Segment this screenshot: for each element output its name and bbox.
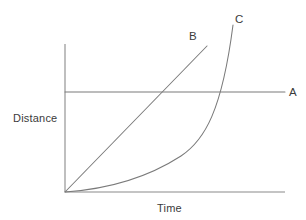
plot-area	[0, 0, 306, 220]
distance-time-graph: Distance Time A B C	[0, 0, 306, 220]
x-axis-label: Time	[157, 202, 182, 215]
series-b-label: B	[189, 30, 197, 43]
series-b-line	[65, 46, 207, 192]
y-axis-label: Distance	[13, 112, 57, 125]
series-a-label: A	[289, 86, 297, 99]
series-c-curve	[65, 25, 233, 192]
series-c-label: C	[235, 13, 244, 26]
